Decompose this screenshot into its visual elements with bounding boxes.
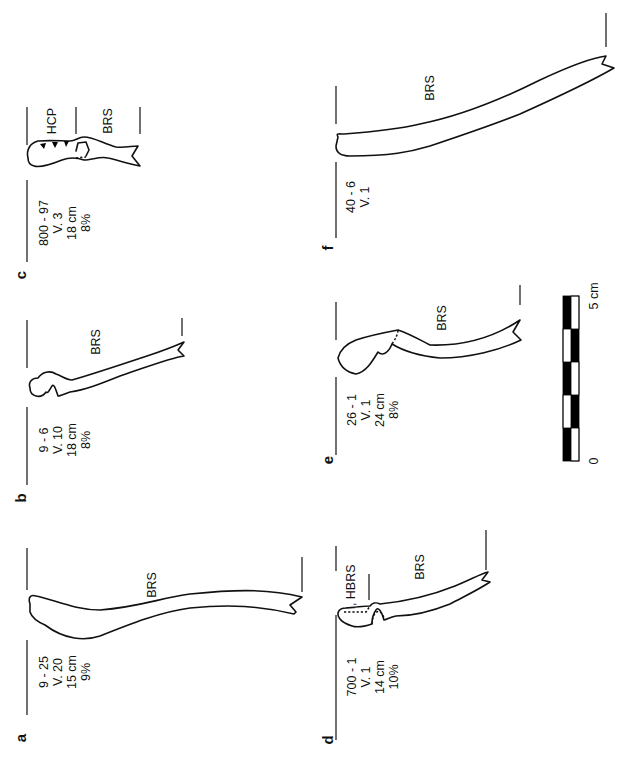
- rim-diameter: 18 cm: [65, 206, 79, 240]
- rim-diameter: 18 cm: [65, 423, 79, 457]
- scale-bar: 0 5 cm: [563, 282, 601, 464]
- rim-percent: 8%: [387, 401, 401, 419]
- vessel-number: V. 1: [359, 399, 373, 420]
- panel-f: BRS 40 - 6 V. 1 f: [319, 13, 614, 251]
- panel-e: BRS 26 - 1 V. 1 24 cm 8% e: [319, 285, 521, 464]
- panel-d: I, HBRS BRS 700 - 1 V. 1 14 cm 10% d: [319, 530, 490, 745]
- panel-b: BRS 9 - 6 V. 10 18 cm 8% b: [12, 318, 184, 503]
- rim-profile-e: [338, 320, 521, 374]
- reconstruction-line: [392, 330, 398, 344]
- zone-label-brs: BRS: [145, 572, 159, 598]
- zone-label-i-hbrs: I, HBRS: [344, 564, 358, 609]
- sherd-number: 40 - 6: [344, 181, 358, 213]
- panel-letter: e: [319, 456, 336, 464]
- rim-profile-f: [336, 56, 614, 156]
- impressed-decoration: [40, 141, 69, 149]
- rim-percent: 9%: [79, 663, 93, 681]
- vessel-number: V. 3: [51, 212, 65, 233]
- sherd-number: 9 - 6: [37, 427, 51, 452]
- rim-percent: 8%: [79, 214, 93, 232]
- panel-letter: d: [319, 735, 336, 744]
- panel-a: BRS 9 - 25 V. 20 15 cm 9% a: [12, 548, 302, 742]
- vessel-number: V. 20: [51, 658, 65, 686]
- rim-profile-figure: BRS 9 - 25 V. 20 15 cm 9% a BRS 9 - 6 V.…: [0, 0, 621, 759]
- scale-start-label: 0: [587, 457, 601, 464]
- zone-label-brs: BRS: [423, 75, 437, 101]
- panel-c: HCP BRS 800 - 97 V. 3 18 cm 8% c: [12, 107, 140, 279]
- rim-diameter: 24 cm: [373, 393, 387, 427]
- vessel-number: V. 10: [51, 426, 65, 454]
- zone-label-brs: BRS: [89, 329, 103, 355]
- sherd-number: 26 - 1: [345, 394, 359, 426]
- rim-profile-c: [27, 137, 140, 167]
- zone-label-brs: BRS: [413, 554, 427, 580]
- rim-diameter: 14 cm: [373, 660, 387, 694]
- rim-profile-a: [29, 591, 302, 639]
- sherd-number: 9 - 25: [37, 656, 51, 688]
- zone-label-hcp: HCP: [45, 108, 59, 134]
- panel-letter: f: [319, 245, 336, 251]
- rim-diameter: 15 cm: [65, 655, 79, 689]
- break-line: [76, 157, 86, 158]
- zone-label-brs: BRS: [435, 305, 449, 331]
- handle-socket: [76, 142, 89, 156]
- scale-end-label: 5 cm: [587, 282, 601, 309]
- rim-percent: 8%: [79, 431, 93, 449]
- sherd-number: 800 - 97: [37, 200, 51, 246]
- panel-letter: c: [12, 271, 29, 279]
- rim-percent: 10%: [387, 664, 401, 689]
- panel-letter: a: [12, 733, 29, 742]
- panel-letter: b: [12, 493, 29, 502]
- zone-label-brs: BRS: [101, 108, 115, 134]
- rim-profile-b: [29, 342, 184, 396]
- vessel-number: V. 1: [359, 666, 373, 687]
- vessel-number: V. 1: [358, 186, 372, 207]
- sherd-number: 700 - 1: [345, 657, 359, 696]
